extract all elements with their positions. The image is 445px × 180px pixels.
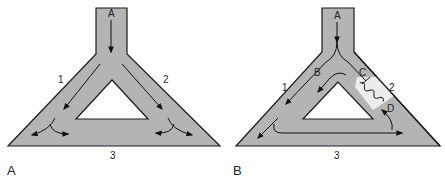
panel-b-label-inflow: A: [334, 10, 341, 21]
panel-a-label-pathway-3: 3: [110, 150, 116, 161]
panel-b-label-d: D: [387, 103, 394, 114]
panel-b-label-b: B: [314, 67, 321, 78]
panel-a: A 1 2 3 A: [7, 8, 220, 178]
panel-b-label-pathway-3: 3: [334, 150, 340, 161]
panel-b: A B C D 1 2 3 B: [233, 8, 440, 178]
panel-a-letter: A: [7, 163, 16, 178]
panel-b-channel: [236, 8, 440, 146]
panel-b-label-pathway-2: 2: [389, 82, 395, 93]
reentry-diagram-figure: A 1 2 3 A: [0, 0, 445, 180]
panel-b-label-pathway-1: 1: [282, 82, 288, 93]
panel-b-label-c: C: [359, 67, 366, 78]
panel-a-label-inflow: A: [108, 8, 115, 19]
panel-a-label-pathway-1: 1: [58, 74, 64, 85]
panel-a-channel: [8, 8, 220, 146]
panel-a-label-pathway-2: 2: [163, 74, 169, 85]
panel-b-letter: B: [233, 163, 242, 178]
